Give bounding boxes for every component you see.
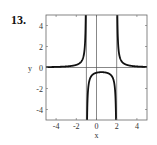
y-tick-label: 4 xyxy=(39,22,43,31)
x-tick-label: 4 xyxy=(135,122,139,131)
x-tick-label: -2 xyxy=(73,122,80,131)
x-axis-label: x xyxy=(95,131,99,140)
y-tick-label: -2 xyxy=(36,85,43,94)
x-tick-label: 2 xyxy=(115,122,119,131)
x-tick-label: 0 xyxy=(95,122,99,131)
x-tick-label: -4 xyxy=(53,122,60,131)
y-tick-label: -4 xyxy=(36,106,43,115)
y-tick-label: 0 xyxy=(39,64,43,73)
curve-branch-2 xyxy=(87,72,117,130)
y-tick-label: 2 xyxy=(39,43,43,52)
curve-branch-1 xyxy=(46,5,86,68)
y-axis-label: y xyxy=(28,64,32,73)
rational-function-plot: -4-2024-4-2024xy xyxy=(0,0,157,145)
curve-branch-3 xyxy=(117,5,147,67)
